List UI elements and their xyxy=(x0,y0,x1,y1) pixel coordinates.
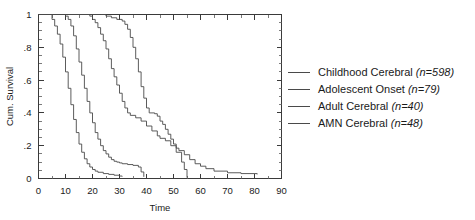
x-tick-label: 30 xyxy=(114,185,125,196)
y-tick-label: 1 xyxy=(26,9,31,20)
legend-item-adolescent-onset: Adolescent Onset (n=79) xyxy=(288,81,475,98)
legend-n-childhood-cerebral: (n=598) xyxy=(416,66,454,78)
legend-label-adolescent-onset: Adolescent Onset (n=79) xyxy=(318,84,440,95)
legend-label-amn-cerebral: AMN Cerebral (n=48) xyxy=(318,118,423,129)
x-tick-label: 90 xyxy=(276,185,287,196)
y-tick-label: .8 xyxy=(24,42,32,53)
legend-item-adult-cerebral: Adult Cerebral (n=40) xyxy=(288,98,475,115)
legend-label-adult-cerebral: Adult Cerebral (n=40) xyxy=(318,101,424,112)
legend-label-childhood-cerebral: Childhood Cerebral (n=598) xyxy=(318,67,454,78)
plot-frame xyxy=(39,15,282,179)
legend-item-amn-cerebral: AMN Cerebral (n=48) xyxy=(288,115,475,132)
y-tick-label: .2 xyxy=(24,140,32,151)
legend-n-adult-cerebral: (n=40) xyxy=(391,100,423,112)
legend-swatch-adolescent-onset xyxy=(288,89,310,90)
survival-curve xyxy=(39,15,188,178)
x-tick-label: 0 xyxy=(36,185,41,196)
x-tick-label: 40 xyxy=(141,185,152,196)
legend-label-text-adolescent-onset: Adolescent Onset xyxy=(318,83,405,95)
legend-n-adolescent-onset: (n=79) xyxy=(408,83,440,95)
legend-label-text-amn-cerebral: AMN Cerebral xyxy=(318,117,388,129)
x-tick-label: 20 xyxy=(87,185,98,196)
survival-chart-figure: 01020304050607080900.2.4.6.81TimeCum. Su… xyxy=(0,0,475,220)
legend-swatch-adult-cerebral xyxy=(288,106,310,107)
legend-swatch-childhood-cerebral xyxy=(288,72,310,73)
survival-curve xyxy=(39,15,144,177)
y-tick-label: 0 xyxy=(26,173,31,184)
legend-item-childhood-cerebral: Childhood Cerebral (n=598) xyxy=(288,64,475,81)
legend-n-amn-cerebral: (n=48) xyxy=(391,117,423,129)
legend-swatch-amn-cerebral xyxy=(288,123,310,124)
x-tick-label: 60 xyxy=(195,185,206,196)
x-axis-title: Time xyxy=(150,202,171,213)
chart-legend: Childhood Cerebral (n=598) Adolescent On… xyxy=(288,64,475,132)
survival-curve xyxy=(39,15,123,177)
y-axis-title: Cum. Survival xyxy=(4,67,15,126)
legend-label-text-adult-cerebral: Adult Cerebral xyxy=(318,100,388,112)
y-tick-label: .6 xyxy=(24,75,32,86)
legend-label-text-childhood-cerebral: Childhood Cerebral xyxy=(318,66,413,78)
y-tick-label: .4 xyxy=(24,107,32,118)
x-tick-label: 10 xyxy=(60,185,71,196)
x-tick-label: 80 xyxy=(249,185,260,196)
x-tick-label: 50 xyxy=(168,185,179,196)
x-tick-label: 70 xyxy=(222,185,233,196)
